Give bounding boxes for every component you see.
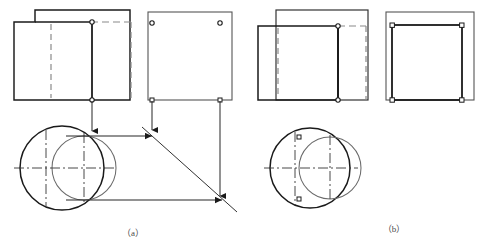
figure-root: （a） — [0, 0, 481, 249]
a-side-node-top-left — [150, 21, 154, 25]
b-side-node-bottom-right — [460, 98, 464, 102]
a-front-node-top — [90, 20, 94, 24]
engineering-drawing-svg: （a） — [0, 0, 481, 249]
b-top-node-intersect-upper — [297, 135, 301, 139]
b-top-node-intersect-lower — [297, 197, 301, 201]
b-front-node-bottom — [336, 98, 340, 102]
b-side-node-top-right — [460, 23, 464, 27]
b-side-node-top-left — [390, 23, 394, 27]
b-front-node-top — [336, 24, 340, 28]
caption-b: （b） — [383, 224, 406, 234]
b-side-node-bottom-left — [390, 98, 394, 102]
a-side-node-top-right — [218, 21, 222, 25]
canvas-background — [0, 0, 481, 249]
caption-a: （a） — [122, 228, 144, 238]
